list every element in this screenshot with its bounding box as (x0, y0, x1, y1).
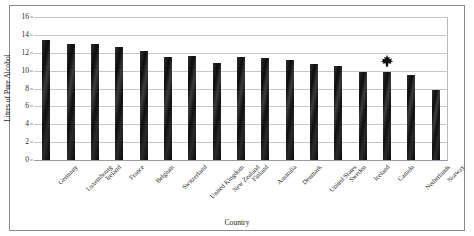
y-tick-label: 12 (22, 49, 30, 57)
y-tick-label: 4 (25, 121, 29, 129)
y-tick-mark (30, 52, 33, 53)
y-tick-mark (30, 17, 33, 18)
bar (334, 66, 342, 160)
bar (286, 60, 294, 160)
bar (115, 47, 123, 160)
clipped-title-strip (0, 0, 474, 3)
bar (140, 51, 148, 160)
x-axis-title: Country (0, 219, 474, 227)
bar (213, 63, 221, 160)
bar (310, 64, 318, 160)
y-tick-mark (30, 142, 33, 143)
bar (359, 72, 367, 160)
gridline (34, 35, 448, 36)
y-axis-title: Litres of Pure Alcohol (4, 54, 12, 122)
bar (42, 40, 50, 160)
y-tick-mark (30, 106, 33, 107)
bar (407, 75, 415, 160)
y-tick-label: 6 (25, 103, 29, 111)
bar (164, 57, 172, 160)
y-tick-mark (30, 160, 33, 161)
y-tick-mark (30, 70, 33, 71)
y-tick-label: 10 (22, 67, 30, 75)
bar (261, 58, 269, 160)
bar (91, 44, 99, 160)
bar (237, 57, 245, 160)
bar (67, 44, 75, 160)
y-tick-mark (30, 88, 33, 89)
y-tick-label: 14 (22, 31, 30, 39)
maple-leaf-icon (380, 54, 394, 68)
chart-figure: Litres of Pure Alcohol Country 024681012… (0, 0, 474, 236)
y-tick-label: 8 (25, 85, 29, 93)
bar (432, 90, 440, 160)
gridline (34, 17, 448, 18)
x-axis-baseline (34, 160, 448, 161)
bar (188, 56, 196, 160)
plot-area: 0246810121416 (34, 17, 448, 160)
y-tick-label: 0 (25, 156, 29, 164)
y-tick-mark (30, 124, 33, 125)
y-tick-label: 2 (25, 138, 29, 146)
y-tick-mark (30, 34, 33, 35)
y-tick-label: 16 (22, 13, 30, 21)
bar (383, 72, 391, 160)
